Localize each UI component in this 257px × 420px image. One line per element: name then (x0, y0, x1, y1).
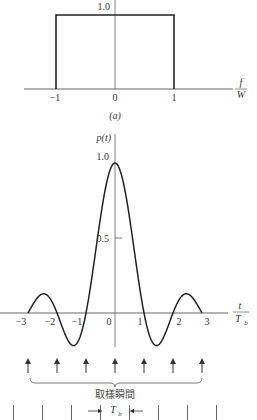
interval-label-sub: b (118, 410, 122, 418)
figure: 1.0 −1 0 1 f W (a) p(t) 1.0 0.5 −3 −2 −1… (0, 0, 257, 420)
panel-a-x-tick-neg1: −1 (50, 92, 61, 103)
panel-b-axis-den-sub: b (244, 319, 248, 327)
panel-a-y-tick: 1.0 (98, 1, 111, 12)
panel-a: 1.0 −1 0 1 f W (a) (24, 0, 247, 122)
panel-b-x-tick: 0 (107, 316, 112, 327)
panel-b-x-tick: 3 (205, 316, 210, 327)
panel-b-y-tick-0-5: 0.5 (97, 233, 110, 244)
panel-b-axis-num: t (239, 300, 242, 311)
panel-a-axis-num: f (240, 77, 244, 88)
panel-b-x-tick: −3 (16, 316, 27, 327)
panel-b-x-tick: 2 (177, 316, 182, 327)
panel-b-x-tick: 1 (138, 316, 143, 327)
sampling-instants-label: 取樣瞬間 (95, 388, 135, 400)
sampling-brace (30, 378, 202, 387)
panel-b: p(t) 1.0 0.5 −3 −2 −1 0 1 2 3 t T b (0, 132, 249, 347)
sampling-arrows (28, 361, 202, 373)
panel-b-x-tick: −2 (45, 316, 56, 327)
panel-b-y-label: p(t) (96, 132, 112, 144)
panel-b-axis-den: T (235, 313, 242, 324)
panel-b-x-tick: −1 (72, 316, 83, 327)
panel-a-caption: (a) (109, 110, 121, 122)
panel-a-x-tick-1: 1 (172, 92, 177, 103)
panel-a-x-tick-0: 0 (113, 92, 118, 103)
interval-label: T (110, 404, 117, 415)
panel-b-y-tick-1: 1.0 (97, 151, 110, 162)
panel-a-axis-den: W (237, 89, 247, 100)
